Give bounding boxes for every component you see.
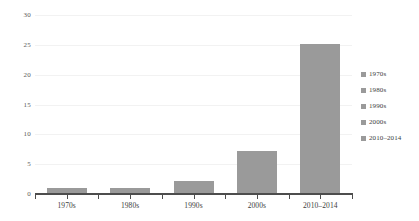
legend-item-2000s[interactable]: 2000s <box>361 114 419 130</box>
y-tick-label-15: 15 <box>5 101 31 109</box>
legend-swatch-icon <box>361 72 366 77</box>
legend-item-1990s[interactable]: 1990s <box>361 98 419 114</box>
x-tick-boundary-0 <box>35 195 36 199</box>
bars-layer <box>35 15 352 194</box>
x-tick-center-2000s <box>257 195 258 199</box>
x-tick-center-1990s <box>194 195 195 199</box>
x-tick-center-1980s <box>130 195 131 199</box>
legend-item-2010-2014[interactable]: 2010–2014 <box>361 130 419 146</box>
y-tick-label-30: 30 <box>5 11 31 19</box>
legend-swatch-icon <box>361 104 366 109</box>
y-axis: 30 25 20 15 10 5 0 <box>0 0 31 221</box>
legend-item-1980s[interactable]: 1980s <box>361 82 419 98</box>
legend-swatch-icon <box>361 120 366 125</box>
legend-swatch-icon <box>361 136 366 141</box>
chart-legend: 1970s 1980s 1990s 2000s 2010–2014 <box>361 66 419 146</box>
y-tick-label-20: 20 <box>5 71 31 79</box>
legend-swatch-icon <box>361 88 366 93</box>
legend-label-1990s: 1990s <box>369 102 386 110</box>
legend-label-2000s: 2000s <box>369 118 386 126</box>
x-tick-boundary-4 <box>289 195 290 199</box>
x-tick-label-1970s: 1970s <box>37 201 97 210</box>
x-tick-center-1970s <box>67 195 68 199</box>
bar-2000s <box>237 151 277 194</box>
legend-label-1980s: 1980s <box>369 86 386 94</box>
x-tick-boundary-2 <box>162 195 163 199</box>
x-tick-label-2000s: 2000s <box>227 201 287 210</box>
x-tick-boundary-5 <box>352 195 353 199</box>
legend-label-1970s: 1970s <box>369 70 386 78</box>
x-tick-boundary-1 <box>98 195 99 199</box>
bar-chart: 30 25 20 15 10 5 0 1970s 1980s 1990s 200… <box>0 0 419 221</box>
x-tick-label-2010-2014: 2010–2014 <box>290 201 350 210</box>
y-tick-label-10: 10 <box>5 130 31 138</box>
legend-label-2010-2014: 2010–2014 <box>369 134 401 142</box>
bar-2010-2014 <box>300 44 340 194</box>
x-tick-boundary-3 <box>225 195 226 199</box>
x-tick-label-1980s: 1980s <box>100 201 160 210</box>
y-tick-label-0: 0 <box>5 190 31 198</box>
y-tick-label-5: 5 <box>5 160 31 168</box>
x-tick-center-2010-2014 <box>320 195 321 199</box>
x-tick-label-1990s: 1990s <box>164 201 224 210</box>
y-tick-label-25: 25 <box>5 41 31 49</box>
legend-item-1970s[interactable]: 1970s <box>361 66 419 82</box>
